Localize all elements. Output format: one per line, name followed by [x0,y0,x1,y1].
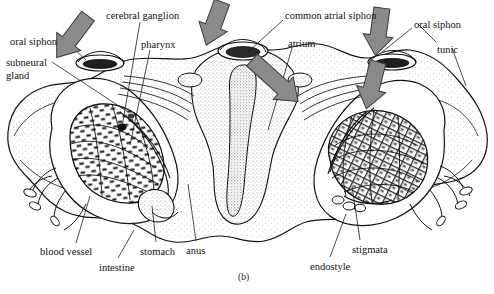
label-common-atrial-siphon: common atrial siphon [285,10,377,22]
figure-caption: (b) [238,272,249,282]
label-stomach: stomach [140,246,175,258]
label-subneural-gland: subneural [6,57,47,69]
label-oral-siphon-left: oral siphon [10,36,57,48]
label-endostyle: endostyle [310,261,350,273]
label-subneural-gland-2: gland [6,70,29,82]
label-stigmata: stigmata [352,244,388,256]
label-anus: anus [186,245,205,257]
label-cerebral-ganglion: cerebral ganglion [106,10,179,22]
label-atrium: atrium [288,38,315,50]
label-oral-siphon-right: oral siphon [414,19,461,31]
label-tunic: tunic [437,44,458,56]
figure-panel: oral siphonsubneuralglandcerebral gangli… [0,0,494,294]
label-blood-vessel: blood vessel [40,246,92,258]
label-intestine: intestine [99,262,135,274]
oral-siphon-opening-left [76,51,124,71]
label-pharynx: pharynx [141,39,175,51]
ampullae-right [435,185,473,227]
leader-intestine [118,230,134,258]
